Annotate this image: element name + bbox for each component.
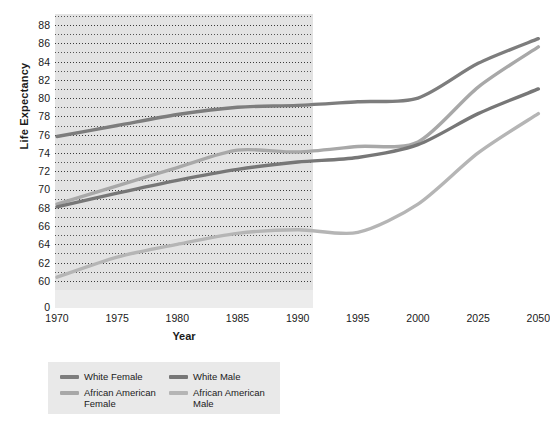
x-tick-2000: 2000 [406, 312, 429, 324]
x-tick-1985: 1985 [226, 312, 249, 324]
legend-item-african-american-male[interactable]: African American Male [169, 387, 272, 409]
legend-item-white-female[interactable]: White Female [60, 371, 163, 382]
y-tick-0: 0 [10, 301, 50, 313]
x-tick-1980: 1980 [166, 312, 189, 324]
x-axis-tick-labels: 197019751980198519901995200020252050 [55, 312, 313, 328]
legend-swatch-icon [169, 375, 188, 379]
x-tick-1970: 1970 [45, 312, 68, 324]
y-tick-84: 84 [10, 56, 50, 68]
legend-label: White Male [193, 371, 241, 382]
y-tick-66: 66 [10, 220, 50, 232]
y-tick-70: 70 [10, 183, 50, 195]
x-tick-2050: 2050 [527, 312, 550, 324]
y-tick-86: 86 [10, 37, 50, 49]
legend-label: White Female [84, 371, 143, 382]
legend-label: African American Male [193, 387, 272, 409]
y-tick-60: 60 [10, 275, 50, 287]
y-tick-88: 88 [10, 19, 50, 31]
plot-area [55, 14, 313, 308]
y-tick-72: 72 [10, 165, 50, 177]
legend-item-african-american-female[interactable]: African American Female [60, 387, 163, 409]
series-line-african-american-male [57, 114, 538, 278]
x-tick-1975: 1975 [106, 312, 129, 324]
legend-swatch-icon [60, 375, 79, 379]
series-line-white-female [57, 39, 538, 137]
y-tick-74: 74 [10, 147, 50, 159]
y-tick-80: 80 [10, 92, 50, 104]
y-tick-68: 68 [10, 202, 50, 214]
x-axis-title: Year [55, 330, 313, 342]
x-tick-1990: 1990 [286, 312, 309, 324]
series-lines [55, 14, 313, 308]
y-axis-tick-labels: 0606264666870727476788082848688 [8, 14, 50, 308]
x-tick-2025: 2025 [467, 312, 490, 324]
chart-legend: White FemaleWhite MaleAfrican American F… [48, 362, 280, 414]
legend-items: White FemaleWhite MaleAfrican American F… [60, 371, 272, 409]
y-tick-76: 76 [10, 129, 50, 141]
x-tick-1995: 1995 [346, 312, 369, 324]
y-tick-64: 64 [10, 238, 50, 250]
y-tick-62: 62 [10, 257, 50, 269]
legend-item-white-male[interactable]: White Male [169, 371, 272, 382]
legend-label: African American Female [84, 387, 163, 409]
legend-swatch-icon [169, 391, 188, 395]
legend-swatch-icon [60, 391, 79, 395]
y-tick-78: 78 [10, 110, 50, 122]
y-tick-82: 82 [10, 74, 50, 86]
